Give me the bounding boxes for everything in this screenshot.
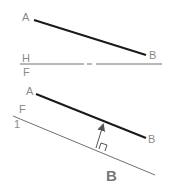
front-label-b: B [148, 133, 155, 145]
auxiliary-view-diagram: A B H F A B F 1 B [0, 0, 174, 186]
projection-arrow-icon [96, 125, 103, 148]
figure-caption: B [106, 167, 117, 184]
fold2-label-f: F [19, 103, 26, 115]
fold-label-h: H [22, 52, 30, 64]
fold-line-f1 [13, 116, 155, 175]
front-label-a: A [26, 85, 34, 97]
front-view-line-ab [36, 94, 146, 138]
top-view-line-ab [34, 20, 146, 55]
fold2-label-1: 1 [14, 118, 20, 130]
top-label-a: A [22, 11, 30, 23]
right-angle-icon [99, 143, 107, 151]
top-label-b: B [149, 49, 156, 61]
fold-label-f: F [23, 66, 30, 78]
